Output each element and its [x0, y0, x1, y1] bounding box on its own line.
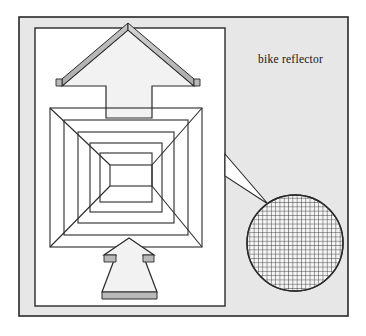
bike-reflector-figure: bike reflector: [0, 0, 366, 336]
magnified-reflector-circle: [247, 195, 343, 291]
arrow-bottom-barb-right: [143, 255, 154, 262]
arrow-top-cap-right: [194, 79, 200, 86]
arrow-bottom-barb-left: [104, 255, 116, 262]
arrow-bottom-base-band: [102, 292, 157, 299]
figure-root: bike reflector: [0, 0, 366, 336]
caption-label: bike reflector: [258, 53, 323, 65]
arrow-top-cap-left: [56, 79, 62, 86]
